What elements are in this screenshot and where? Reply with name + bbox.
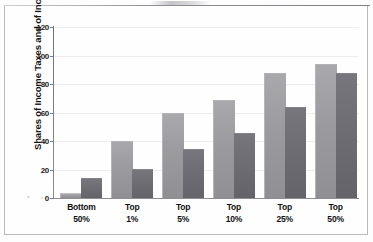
y-axis-tick-mark: [50, 27, 54, 28]
x-axis-tick-label-line1: Top: [328, 202, 342, 212]
plot-area: [54, 27, 359, 198]
x-axis-tick-label-line1: Top: [176, 202, 190, 212]
bar-group: [60, 27, 102, 198]
bar-group: [162, 27, 204, 198]
x-axis-tick-label-line1: Top: [278, 202, 292, 212]
bar-income-taxes[interactable]: [60, 193, 82, 198]
y-axis-tick-mark: [50, 56, 54, 57]
bar-income-taxes[interactable]: [315, 64, 337, 198]
scan-speck-icon: [27, 196, 30, 198]
bar-income-taxes[interactable]: [162, 113, 184, 198]
axis-baseline: [54, 198, 359, 199]
y-axis-tick-mark: [50, 141, 54, 142]
figure-root: Shares of Income Taxes and of Income (%)…: [0, 0, 373, 242]
x-axis-tick-label-line1: Top: [227, 202, 241, 212]
y-axis-tick-label: 120: [37, 23, 49, 32]
x-axis-tick-label: Top50%: [306, 202, 366, 225]
bar-income[interactable]: [183, 149, 204, 198]
bar-income-taxes[interactable]: [264, 73, 286, 198]
y-axis-tick-labels: 020406080100120: [25, 6, 49, 242]
bar-group: [264, 27, 306, 198]
y-axis-tick-label: 60: [41, 108, 49, 117]
bar-income[interactable]: [336, 73, 357, 198]
bar-group: [315, 27, 357, 198]
y-axis-tick-label: 0: [45, 194, 49, 203]
bar-group: [111, 27, 153, 198]
y-axis-tick-mark: [50, 84, 54, 85]
bar-income-taxes[interactable]: [111, 141, 133, 198]
y-axis-tick-mark: [50, 198, 54, 199]
x-axis-tick-label-line1: Bottom: [67, 202, 96, 212]
y-axis-tick-label: 40: [41, 137, 49, 146]
bar-income[interactable]: [132, 169, 153, 199]
bar-income[interactable]: [285, 107, 306, 198]
y-axis-tick-label: 100: [37, 51, 49, 60]
bar-income-taxes[interactable]: [213, 100, 235, 198]
x-axis-tick-labels: Bottom50%Top1%Top5%Top10%Top25%Top50%: [54, 202, 359, 242]
x-axis-tick-label-line2: 50%: [306, 214, 366, 226]
bar-group: [213, 27, 255, 198]
bar-income[interactable]: [234, 133, 255, 198]
y-axis-tick-mark: [50, 170, 54, 171]
y-axis-tick-label: 80: [41, 80, 49, 89]
scan-speck-icon: [41, 197, 43, 199]
y-axis-tick-mark: [50, 113, 54, 114]
bar-income[interactable]: [81, 178, 102, 198]
chart-frame: Shares of Income Taxes and of Income (%)…: [4, 6, 368, 235]
y-axis-tick-label: 20: [41, 165, 49, 174]
x-axis-tick-label-line1: Top: [125, 202, 139, 212]
